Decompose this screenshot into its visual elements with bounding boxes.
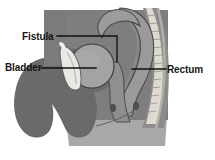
tissue-void-left xyxy=(110,104,116,112)
pelvic-cross-section-illustration xyxy=(0,0,215,160)
label-fistula: Fistula xyxy=(22,31,54,42)
anatomical-diagram: Fistula Bladder Rectum xyxy=(0,0,215,160)
label-bladder: Bladder xyxy=(5,62,42,73)
label-rectum: Rectum xyxy=(167,64,203,75)
